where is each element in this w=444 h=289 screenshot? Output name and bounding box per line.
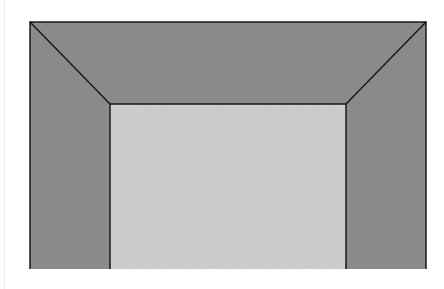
room-perspective-diagram: [0, 0, 444, 289]
inner-panel: [110, 104, 346, 269]
